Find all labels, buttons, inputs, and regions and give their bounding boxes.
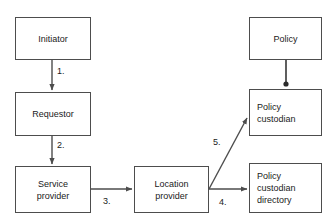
diagram-canvas: Initiator Requestor Service provider Loc… — [0, 0, 334, 220]
edge-label-3: 3. — [103, 196, 111, 206]
node-service-provider[interactable]: Service provider — [15, 166, 91, 213]
node-policy-custodian[interactable]: Policy custodian — [249, 89, 322, 136]
node-initiator-label-line-1: Initiator — [38, 33, 68, 45]
node-policy-custodian-directory-label-line-2: custodian — [257, 182, 296, 194]
node-policy-custodian-directory-label-line-1: Policy — [257, 170, 281, 182]
edge-label-5: 5. — [213, 137, 221, 147]
node-requestor[interactable]: Requestor — [15, 92, 91, 136]
node-requestor-label-line-1: Requestor — [32, 108, 74, 120]
node-location-provider-label-line-1: Location — [154, 178, 188, 190]
edge-location-provider-to-policy-custodian — [209, 118, 247, 189]
node-policy-label-line-1: Policy — [273, 33, 297, 45]
node-service-provider-label-line-1: Service — [38, 178, 68, 190]
node-initiator[interactable]: Initiator — [15, 17, 91, 60]
node-policy[interactable]: Policy — [249, 17, 322, 60]
node-policy-custodian-directory-label-line-3: directory — [257, 194, 292, 206]
node-location-provider-label-line-2: provider — [155, 190, 188, 202]
node-policy-custodian-directory[interactable]: Policy custodian directory — [249, 163, 322, 213]
node-policy-custodian-label-line-2: custodian — [257, 113, 296, 125]
node-location-provider[interactable]: Location provider — [134, 166, 209, 213]
node-policy-custodian-label-line-1: Policy — [257, 101, 281, 113]
edge-label-1: 1. — [57, 66, 65, 76]
edge-label-2: 2. — [57, 140, 65, 150]
node-service-provider-label-line-2: provider — [37, 190, 70, 202]
edge-label-4: 4. — [219, 197, 227, 207]
